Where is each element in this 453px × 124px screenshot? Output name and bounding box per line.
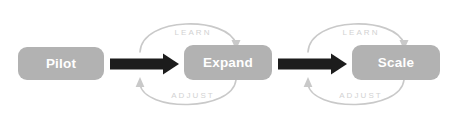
process-flow-diagram: Pilot Expand Scale LEARN ADJUST LEARN AD…: [0, 0, 453, 124]
flow-arrow-head-1: [163, 54, 179, 75]
loop-label-learn-2: LEARN: [328, 29, 394, 37]
loop-label-learn-1: LEARN: [160, 29, 226, 37]
adjust-arrowhead-1: [136, 77, 145, 87]
stage-label-expand: Expand: [203, 56, 253, 70]
flow-arrow-head-2: [331, 54, 347, 75]
loop-label-adjust-1: ADJUST: [160, 92, 226, 100]
flow-arrow-shaft-2: [278, 59, 334, 70]
loop-label-adjust-2: ADJUST: [328, 92, 394, 100]
stage-label-pilot: Pilot: [46, 57, 76, 71]
flow-arrow-shaft-1: [110, 59, 166, 70]
stage-box-expand[interactable]: Expand: [184, 45, 272, 80]
flow-arrow-pilot-to-expand: [110, 54, 179, 75]
stage-label-scale: Scale: [378, 56, 414, 70]
stage-box-pilot[interactable]: Pilot: [18, 47, 104, 80]
flow-arrow-expand-to-scale: [278, 54, 347, 75]
stage-box-scale[interactable]: Scale: [352, 45, 440, 80]
adjust-arrowhead-2: [304, 77, 313, 87]
